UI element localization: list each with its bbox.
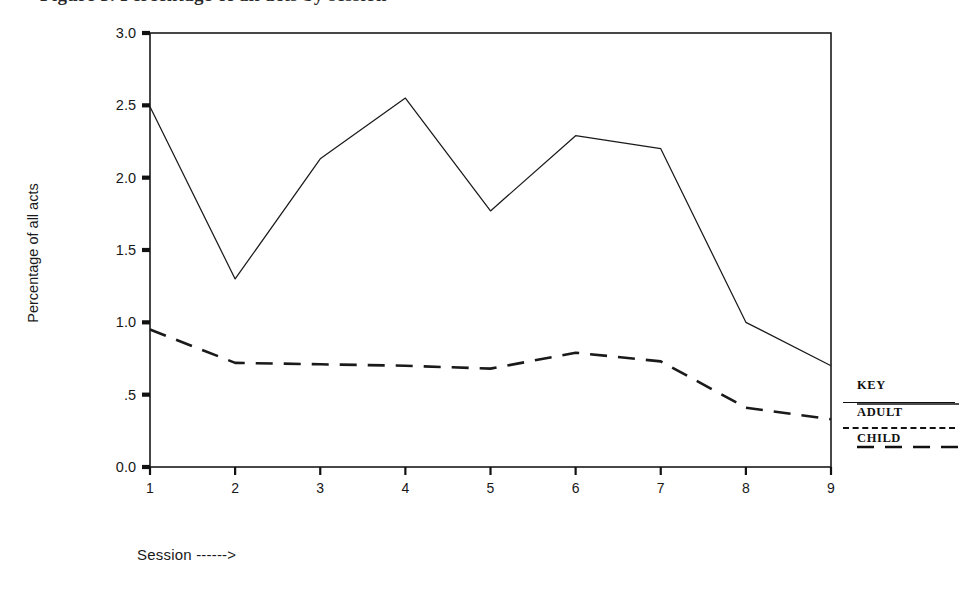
x-tick-label: 5 [487,480,495,496]
x-tick-label: 9 [827,480,835,496]
legend: KEY ADULT CHILD [843,378,959,446]
x-tick-label: 3 [316,480,324,496]
series-line-child [150,330,831,420]
x-tick-label: 6 [572,480,580,496]
y-tick-label: 2.0 [116,170,136,186]
x-tick-label: 8 [742,480,750,496]
legend-swatch-adult [843,402,955,403]
legend-label-adult: ADULT [857,405,959,420]
x-tick-label: 4 [401,480,409,496]
y-tick-label: 1.0 [116,314,136,330]
x-tick-label: 2 [231,480,239,496]
y-tick-label: 3.0 [116,25,136,41]
series-line-adult [150,98,831,366]
y-tick-label: .5 [124,387,136,403]
legend-label-child: CHILD [857,431,959,446]
x-tick-label: 1 [146,480,154,496]
plot-frame [150,33,831,467]
legend-title: KEY [857,378,959,393]
y-tick-label: 1.5 [116,242,136,258]
y-tick-label: 2.5 [116,97,136,113]
y-tick-label: 0.0 [116,459,136,475]
line-chart: 3.02.52.01.51.0.50.0123456789 [0,0,959,591]
x-tick-label: 7 [657,480,665,496]
legend-swatch-child [843,427,955,429]
figure-page: Figure 3. Percentage of all acts by sess… [0,0,959,591]
